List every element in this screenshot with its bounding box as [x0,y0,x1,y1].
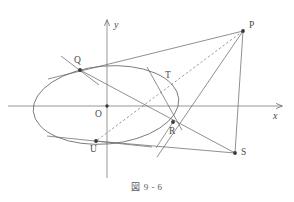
tangent-line-at-u [47,136,152,147]
figure-container: P Q T R S U O x y 図 9 - 6 [0,0,294,202]
figure-caption: 図 9 - 6 [0,180,294,193]
point-label-P: P [249,21,254,31]
point-label-S: S [241,148,246,158]
point-dot-U [94,139,98,143]
line-q-s [80,70,235,153]
line-p-s [235,31,243,153]
point-dot-P [241,29,245,33]
point-label-R: R [169,127,175,137]
point-label-Q: Q [74,56,81,66]
line-u-s [96,141,235,153]
point-dot-S [233,151,237,155]
point-label-T: T [165,71,171,81]
point-label-U: U [90,145,97,155]
point-dot-O [105,104,108,107]
y-axis-label: y [114,20,118,30]
point-dot-R [171,120,175,124]
line-p-r [157,31,243,157]
x-axis-label: x [273,111,277,121]
point-dot-Q [78,68,82,72]
line-p-u-dashed [96,31,243,141]
point-label-O: O [95,110,102,120]
